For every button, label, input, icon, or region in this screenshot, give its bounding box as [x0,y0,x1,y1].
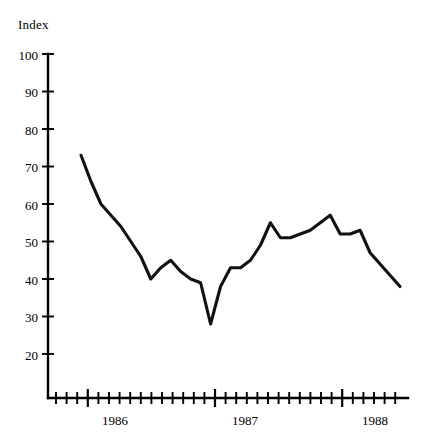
data-line [81,155,400,324]
plot-area [0,0,426,448]
line-chart: Index 100 90 80 70 60 50 40 30 20 1986 1… [0,0,426,448]
